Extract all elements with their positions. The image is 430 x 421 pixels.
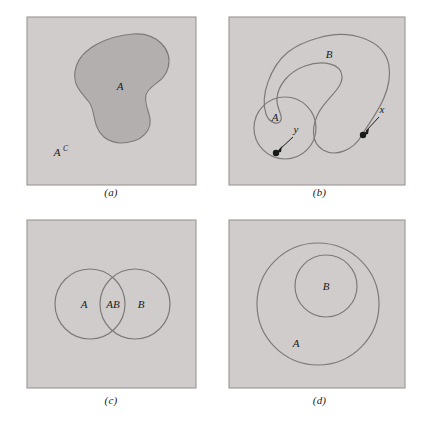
- panel-a-caption: (a): [16, 186, 206, 198]
- label-set-b: B: [323, 280, 330, 292]
- sample-space-box: [229, 17, 405, 185]
- label-set-a: A: [116, 80, 124, 92]
- label-set-a: A: [271, 111, 279, 123]
- panel-b-caption: (b): [222, 186, 417, 198]
- panel-d-figure: B A: [222, 216, 417, 406]
- label-point-x: x: [379, 103, 385, 115]
- figure-root: A A C (a) B A x y (b): [0, 0, 430, 421]
- panel-c-figure: A AB B: [16, 216, 206, 406]
- panel-d-caption: (d): [222, 394, 417, 406]
- label-set-a-complement: A: [53, 146, 61, 158]
- panel-c-caption: (c): [16, 394, 206, 406]
- label-set-b: B: [138, 298, 145, 310]
- panel-c: A AB B (c): [16, 216, 206, 406]
- label-set-a: A: [80, 298, 88, 310]
- panel-b-figure: B A x y: [222, 10, 417, 195]
- panel-a-figure: A A C: [16, 10, 206, 195]
- panel-d: B A (d): [222, 216, 417, 406]
- panel-b: B A x y (b): [222, 10, 417, 195]
- label-point-y: y: [293, 123, 299, 135]
- label-set-b: B: [326, 48, 333, 60]
- panel-a: A A C (a): [16, 10, 206, 195]
- label-set-a: A: [292, 337, 300, 349]
- label-set-ab-intersection: AB: [105, 298, 120, 310]
